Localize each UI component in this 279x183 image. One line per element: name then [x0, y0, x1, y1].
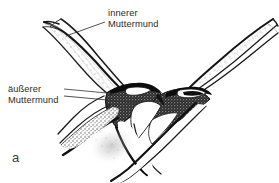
upper-right-tube — [187, 19, 278, 95]
label-outer-os: äußerer Muttermund — [8, 84, 59, 107]
figure-panel: innerer Muttermund äußerer Muttermund a — [0, 0, 279, 183]
leader-line-inner-os — [66, 22, 105, 36]
label-inner-os: innerer Muttermund — [108, 8, 159, 31]
label-outer-os-line1: äußerer — [8, 84, 59, 95]
panel-letter: a — [12, 150, 19, 165]
label-inner-os-line2: Muttermund — [108, 19, 159, 30]
label-outer-os-line2: Muttermund — [8, 95, 59, 106]
label-inner-os-line1: innerer — [108, 8, 159, 19]
